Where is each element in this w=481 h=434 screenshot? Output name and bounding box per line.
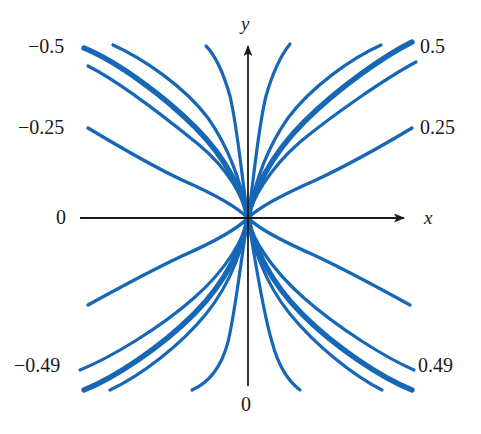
curve-label-neg-0-25: −0.25 bbox=[18, 117, 64, 137]
curve-label-zero-bottom: 0 bbox=[241, 394, 251, 414]
curve-label-pos-0-5: 0.5 bbox=[420, 36, 445, 56]
x-axis-label: x bbox=[424, 208, 432, 227]
curve-label-pos-0-25: 0.25 bbox=[420, 117, 455, 137]
curve-pos-0-49-lower bbox=[248, 218, 412, 390]
curve-label-neg-0-5: −0.5 bbox=[28, 36, 64, 56]
curves-lower-right bbox=[248, 218, 414, 390]
y-axis-label: y bbox=[241, 14, 249, 33]
curve-label-pos-0-49: 0.49 bbox=[418, 355, 453, 375]
curve-neg-0-49-lower bbox=[84, 218, 248, 390]
curve-pos-0-25-lower bbox=[248, 218, 410, 305]
curve-pos-0-5 bbox=[248, 42, 412, 218]
curve-label-zero-left: 0 bbox=[56, 207, 66, 227]
curve-neg-0-25-lower bbox=[88, 218, 248, 305]
plot-canvas bbox=[0, 0, 481, 434]
curves-lower-left bbox=[80, 218, 248, 390]
curve-family-figure: y x −0.5 −0.25 0 −0.49 0 0.5 0.25 0.49 bbox=[0, 0, 481, 434]
curves-upper-left bbox=[84, 45, 248, 218]
curves-upper-right bbox=[248, 42, 416, 218]
curve-label-neg-0-49: −0.49 bbox=[14, 355, 60, 375]
